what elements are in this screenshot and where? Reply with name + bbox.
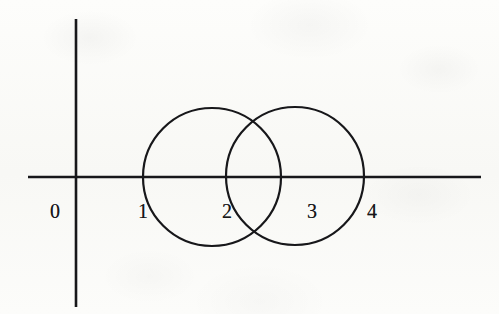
- figure-canvas: 0 1 2 3 4: [0, 0, 499, 314]
- tick-label-2: 2: [222, 201, 232, 221]
- tick-label-0: 0: [50, 201, 60, 221]
- geometry-diagram: [0, 0, 499, 314]
- tick-label-3: 3: [307, 201, 317, 221]
- tick-label-4: 4: [367, 201, 377, 221]
- tick-label-1: 1: [138, 201, 148, 221]
